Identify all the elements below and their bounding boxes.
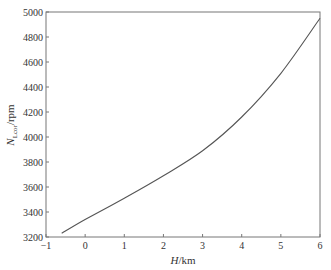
y-tick-label: 3600 — [23, 182, 43, 193]
plot-border — [46, 12, 320, 237]
x-tick-label: 0 — [83, 240, 88, 251]
y-axis-label-unit: /rpm — [4, 104, 16, 125]
plot-frame — [46, 12, 320, 237]
x-tick-label: 4 — [239, 240, 244, 251]
x-tick-label: 3 — [200, 240, 205, 251]
y-axis-label-sub: Lcor — [11, 124, 19, 138]
x-tick-label: 1 — [122, 240, 127, 251]
y-tick-label: 5000 — [23, 7, 43, 18]
y-tick-label: 4800 — [23, 32, 43, 43]
y-tick-label: 3800 — [23, 157, 43, 168]
x-tick-label: 2 — [161, 240, 166, 251]
y-tick-label: 4200 — [23, 107, 43, 118]
y-tick-label: 4600 — [23, 57, 43, 68]
y-tick-label: 4000 — [23, 132, 43, 143]
x-tick-label: 5 — [278, 240, 283, 251]
data-line — [62, 18, 320, 233]
y-tick-label: 3400 — [23, 207, 43, 218]
y-axis-ticks: 3200340036003800400042004400460048005000 — [23, 7, 49, 243]
x-axis-label-unit: /km — [178, 254, 196, 266]
x-tick-label: −1 — [41, 240, 52, 251]
x-axis-label: H/km — [169, 254, 196, 266]
line-chart: 3200340036003800400042004400460048005000… — [0, 0, 331, 270]
y-axis-label: NLcor/rpm — [4, 104, 19, 147]
x-tick-label: 6 — [318, 240, 323, 251]
y-tick-label: 4400 — [23, 82, 43, 93]
